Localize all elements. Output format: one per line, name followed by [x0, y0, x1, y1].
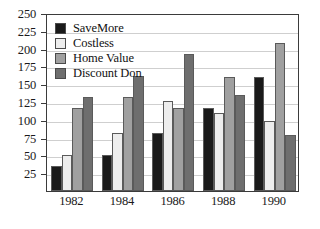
bar: [163, 101, 174, 191]
bar: [203, 108, 214, 191]
x-tick-label: 1988: [211, 194, 235, 209]
x-tick-label: 1984: [110, 194, 134, 209]
x-tick-label: 1986: [160, 194, 184, 209]
bar: [83, 97, 94, 191]
legend-swatch-icon: [55, 68, 66, 79]
y-tick-label: 25: [24, 167, 36, 182]
y-tick-label: 125: [18, 96, 36, 111]
y-axis: 255075100125150175200225250: [0, 14, 42, 192]
bar: [254, 77, 265, 191]
legend-item: Home Value: [55, 51, 142, 65]
bar: [133, 76, 144, 191]
bar: [152, 133, 163, 191]
bar-chart: 255075100125150175200225250 198219841986…: [0, 0, 320, 229]
legend-swatch-icon: [55, 23, 66, 34]
y-tick-label: 100: [18, 113, 36, 128]
legend-label: Costless: [73, 37, 114, 50]
bar-group: [249, 15, 300, 191]
bar: [214, 113, 225, 191]
bar: [224, 77, 235, 191]
legend-label: SaveMore: [73, 22, 124, 35]
legend-item: Costless: [55, 36, 142, 50]
y-tick-label: 50: [24, 149, 36, 164]
y-tick-label: 150: [18, 78, 36, 93]
bar: [51, 166, 62, 191]
legend-label: Home Value: [73, 52, 134, 65]
legend-item: SaveMore: [55, 21, 142, 35]
bar-group: [148, 15, 199, 191]
bar: [235, 95, 246, 191]
legend-label: Discount Don: [73, 67, 142, 80]
x-axis: 19821984198619881990: [46, 194, 299, 216]
legend-item: Discount Don: [55, 66, 142, 80]
bar: [123, 97, 134, 191]
y-tick-label: 225: [18, 24, 36, 39]
y-tick-label: 250: [18, 7, 36, 22]
legend-swatch-icon: [55, 38, 66, 49]
legend-swatch-icon: [55, 53, 66, 64]
bar: [264, 121, 275, 191]
legend: SaveMoreCostlessHome ValueDiscount Don: [55, 21, 142, 80]
x-tick-label: 1990: [262, 194, 286, 209]
bar: [62, 155, 73, 191]
bar: [112, 133, 123, 191]
y-tick-label: 75: [24, 131, 36, 146]
bar: [184, 54, 195, 191]
bar-group: [199, 15, 250, 191]
bar: [173, 108, 184, 191]
x-tick-label: 1982: [59, 194, 83, 209]
y-tick-label: 175: [18, 60, 36, 75]
bar: [275, 43, 286, 191]
bar: [102, 155, 113, 191]
bar: [72, 108, 83, 191]
bar: [285, 135, 296, 191]
y-tick-label: 200: [18, 42, 36, 57]
